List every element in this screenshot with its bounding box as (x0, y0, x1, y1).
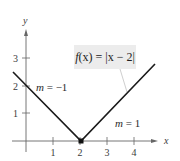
graph-canvas: y x 1 2 3 4 1 2 3 m = −1 m = 1 (0, 0, 180, 161)
function-label-box: f(x) = |x − 2| (74, 45, 136, 69)
x-tick-label-2: 2 (78, 147, 83, 158)
y-axis-arrow-icon (24, 29, 28, 36)
slope-label-right: m = 1 (115, 117, 140, 129)
y-tick-label-3: 3 (13, 53, 18, 64)
y-tick-label-2: 2 (13, 81, 18, 92)
x-axis-label: x (163, 135, 169, 146)
function-line (13, 64, 155, 141)
label-leader-line (120, 69, 127, 92)
x-tick-label-3: 3 (105, 147, 110, 158)
x-tick-label-1: 1 (51, 147, 56, 158)
vertex-point (79, 139, 84, 144)
function-expression: (x) = |x − 2| (79, 50, 135, 64)
y-tick-label-1: 1 (13, 108, 18, 119)
y-axis-label: y (22, 15, 28, 26)
slope-label-left: m = −1 (36, 81, 67, 93)
x-axis-arrow-icon (151, 139, 158, 143)
x-tick-label-4: 4 (132, 147, 137, 158)
